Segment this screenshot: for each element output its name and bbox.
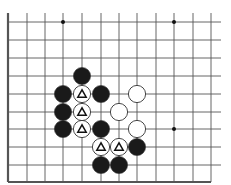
stones <box>54 67 145 173</box>
star-point <box>172 127 176 131</box>
black-stone[interactable] <box>128 138 145 155</box>
black-stone[interactable] <box>54 103 71 120</box>
white-stone-marked[interactable] <box>110 138 127 155</box>
star-point <box>61 20 65 24</box>
white-stone-icon <box>92 138 109 155</box>
black-stone-icon <box>54 120 71 137</box>
black-stone[interactable] <box>92 156 109 173</box>
white-stone-icon <box>73 120 90 137</box>
black-stone-icon <box>92 120 109 137</box>
white-stone-marked[interactable] <box>73 85 90 102</box>
white-stone[interactable] <box>128 85 145 102</box>
white-stone-icon <box>110 138 127 155</box>
go-board <box>0 0 231 185</box>
black-stone-icon <box>128 138 145 155</box>
black-stone[interactable] <box>110 156 127 173</box>
grid-lines <box>8 13 221 182</box>
black-stone-icon <box>92 156 109 173</box>
black-stone-icon <box>92 85 109 102</box>
white-stone-icon <box>73 103 90 120</box>
white-stone-marked[interactable] <box>92 138 109 155</box>
white-stone[interactable] <box>128 120 145 137</box>
black-stone[interactable] <box>54 85 71 102</box>
star-point <box>172 20 176 24</box>
black-stone[interactable] <box>54 120 71 137</box>
black-stone-icon <box>73 67 90 84</box>
white-stone-icon <box>110 103 127 120</box>
white-stone-icon <box>73 85 90 102</box>
black-stone-icon <box>110 156 127 173</box>
white-stone-icon <box>128 85 145 102</box>
black-stone-icon <box>54 85 71 102</box>
white-stone-marked[interactable] <box>73 103 90 120</box>
black-stone-icon <box>54 103 71 120</box>
white-stone-marked[interactable] <box>73 120 90 137</box>
white-stone[interactable] <box>110 103 127 120</box>
white-stone-icon <box>128 120 145 137</box>
black-stone[interactable] <box>73 67 90 84</box>
black-stone[interactable] <box>92 120 109 137</box>
black-stone[interactable] <box>92 85 109 102</box>
